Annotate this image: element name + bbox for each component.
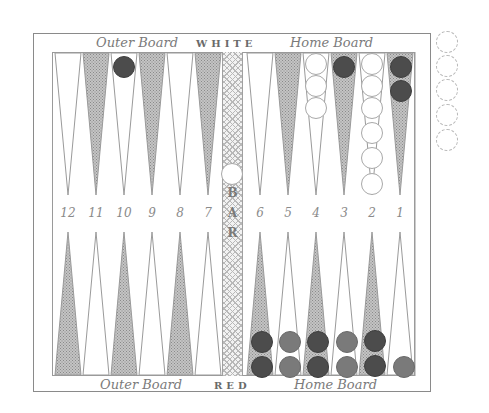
bottom-left-label: Outer Board bbox=[100, 377, 182, 392]
point-13[interactable] bbox=[55, 232, 81, 375]
checker-point-3-dark[interactable] bbox=[333, 56, 355, 78]
point-number-8: 8 bbox=[170, 206, 190, 220]
checker-point-4-white[interactable] bbox=[305, 53, 327, 75]
point-12[interactable] bbox=[55, 53, 81, 195]
top-center-label: WHITE bbox=[196, 38, 256, 49]
bar-letter-a: A bbox=[222, 206, 243, 220]
checker-point-5-red[interactable] bbox=[279, 356, 301, 378]
point-23[interactable] bbox=[359, 232, 385, 375]
point-7[interactable] bbox=[195, 53, 221, 195]
top-right-label: Home Board bbox=[290, 35, 373, 50]
checker-point-2-dark[interactable] bbox=[364, 330, 386, 352]
checker-point-2-white[interactable] bbox=[361, 147, 383, 169]
point-22[interactable] bbox=[331, 232, 357, 375]
point-number-4: 4 bbox=[306, 206, 326, 220]
point-11[interactable] bbox=[83, 53, 109, 195]
point-5[interactable] bbox=[275, 53, 301, 195]
point-number-12: 12 bbox=[58, 206, 78, 220]
checker-point-4-dark[interactable] bbox=[307, 331, 329, 353]
checker-point-2-white[interactable] bbox=[361, 173, 383, 195]
top-left-label: Outer Board bbox=[96, 35, 178, 50]
point-number-10: 10 bbox=[114, 206, 134, 220]
point-17[interactable] bbox=[167, 232, 193, 375]
bottom-center-label: RED bbox=[214, 380, 251, 391]
checker-point-5-red[interactable] bbox=[279, 331, 301, 353]
point-number-3: 3 bbox=[334, 206, 354, 220]
point-24[interactable] bbox=[387, 232, 413, 375]
checker-point-4-white[interactable] bbox=[305, 97, 327, 119]
checker-point-2-white[interactable] bbox=[361, 122, 383, 144]
checker-bar-white[interactable] bbox=[221, 163, 243, 185]
checker-point-6-dark[interactable] bbox=[251, 331, 273, 353]
checker-point-2-white[interactable] bbox=[361, 75, 383, 97]
checker-point-1-dark[interactable] bbox=[390, 56, 412, 78]
borne-off-slot bbox=[436, 55, 458, 77]
checker-point-2-white[interactable] bbox=[361, 53, 383, 75]
borne-off-slot bbox=[436, 79, 458, 101]
checker-point-2-white[interactable] bbox=[361, 97, 383, 119]
bar-letter-r: R bbox=[222, 226, 243, 240]
checker-point-4-dark[interactable] bbox=[307, 356, 329, 378]
borne-off-slot bbox=[436, 31, 458, 53]
bottom-right-label: Home Board bbox=[294, 377, 377, 392]
checker-point-1-dark[interactable] bbox=[390, 80, 412, 102]
checker-point-3-red[interactable] bbox=[336, 331, 358, 353]
point-18[interactable] bbox=[195, 232, 221, 375]
point-8[interactable] bbox=[167, 53, 193, 195]
borne-off-slot bbox=[436, 104, 458, 126]
point-number-5: 5 bbox=[278, 206, 298, 220]
point-15[interactable] bbox=[111, 232, 137, 375]
point-number-2: 2 bbox=[362, 206, 382, 220]
point-6[interactable] bbox=[247, 53, 273, 195]
point-number-6: 6 bbox=[250, 206, 270, 220]
checker-point-1-red[interactable] bbox=[393, 356, 415, 378]
point-14[interactable] bbox=[83, 232, 109, 375]
point-19[interactable] bbox=[247, 232, 273, 375]
checker-point-3-red[interactable] bbox=[336, 356, 358, 378]
point-number-11: 11 bbox=[86, 206, 106, 220]
point-16[interactable] bbox=[139, 232, 165, 375]
point-number-1: 1 bbox=[390, 206, 410, 220]
borne-off-slot bbox=[436, 129, 458, 151]
point-number-7: 7 bbox=[198, 206, 218, 220]
checker-point-6-dark[interactable] bbox=[251, 356, 273, 378]
point-21[interactable] bbox=[303, 232, 329, 375]
point-20[interactable] bbox=[275, 232, 301, 375]
checker-point-4-white[interactable] bbox=[305, 75, 327, 97]
bar-letter-b: B bbox=[222, 186, 243, 200]
checker-point-10-dark[interactable] bbox=[113, 56, 135, 78]
checker-point-2-dark[interactable] bbox=[364, 355, 386, 377]
point-9[interactable] bbox=[139, 53, 165, 195]
point-number-9: 9 bbox=[142, 206, 162, 220]
